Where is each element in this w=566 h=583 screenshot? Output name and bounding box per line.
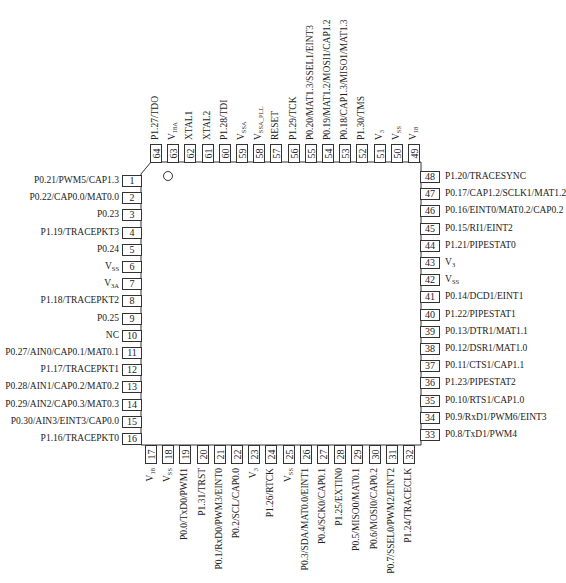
pin-number: 46 — [420, 205, 440, 217]
pin-number-text: 24 — [266, 450, 277, 460]
pin-number: 10 — [122, 330, 142, 342]
pin-number: 62 — [184, 144, 196, 163]
pin-number-text: 63 — [168, 149, 179, 159]
pin-label: VSS — [392, 126, 403, 140]
pin-label: P0.22/CAP0.0/MAT0.0 — [30, 193, 119, 203]
pin-label: P0.25 — [97, 314, 119, 324]
pin-number: 7 — [122, 278, 142, 290]
pin-label: P0.9/RxD1/PWM6/EINT3 — [445, 413, 547, 423]
pin-number: 49 — [408, 144, 420, 163]
pin-number: 24 — [265, 445, 277, 464]
pin-label: P0.11/CTS1/CAP1.1 — [445, 361, 524, 371]
pin-number: 22 — [231, 445, 243, 464]
pin-label: VSS — [105, 262, 119, 273]
pin-number: 19 — [179, 445, 191, 464]
pin-number: 29 — [351, 445, 363, 464]
pin-number: 18 — [162, 445, 174, 464]
pin-number-text: 61 — [202, 149, 213, 159]
pin-number: 31 — [386, 445, 398, 464]
pin-label: P0.20/MAT1.3/SSEL1/EINT3 — [306, 25, 316, 140]
pin-number: 42 — [420, 274, 440, 286]
pin-number: 32 — [403, 445, 415, 464]
pin-number-text: 54 — [323, 149, 334, 159]
pin-label: P0.19/MAT1.2/MOSI1/CAP1.2 — [323, 19, 333, 140]
pin-label: P0.4/SCK0/CAP0.1 — [318, 468, 328, 544]
pin-label: P0.3/SDA/MAT0.0/EINT1 — [301, 468, 311, 570]
pin-number-text: 57 — [271, 149, 282, 159]
pin-label: V3 — [249, 468, 260, 478]
pin-number-text: 58 — [254, 149, 265, 159]
pin-number: 45 — [420, 223, 440, 235]
pin-number: 53 — [339, 144, 351, 163]
pin-label: P1.16/TRACEPKT0 — [41, 434, 119, 444]
pin-label: P0.27/AIN0/CAP0.1/MAT0.1 — [5, 348, 119, 358]
pin-number: 5 — [122, 244, 142, 256]
pin-number: 21 — [214, 445, 226, 464]
pin-number: 55 — [305, 144, 317, 163]
pin-label: V18 — [146, 468, 157, 481]
pin-number: 36 — [420, 377, 440, 389]
pin-label: P1.19/TRACEPKT3 — [41, 228, 119, 238]
pin-number-text: 60 — [219, 149, 230, 159]
pin-number-text: 20 — [197, 450, 208, 460]
pin-number-text: 52 — [357, 149, 368, 159]
pin-number: 3 — [122, 209, 142, 221]
pin-label: P0.10/RTS1/CAP1.0 — [445, 396, 524, 406]
pin-label: P1.24/TRACECLK — [404, 468, 414, 543]
pin-number-text: 18 — [163, 450, 174, 460]
pin-label: P0.15/RI1/EINT2 — [445, 224, 513, 234]
pin-number: 35 — [420, 395, 440, 407]
pin-number: 33 — [420, 429, 440, 441]
pin-label: P0.13/DTR1/MAT1.1 — [445, 327, 528, 337]
pin-number: 43 — [420, 257, 440, 269]
pin-number-text: 21 — [214, 450, 225, 460]
pin-number: 61 — [202, 144, 214, 163]
pin-number-text: 62 — [185, 149, 196, 159]
pin-number: 12 — [122, 364, 142, 376]
pin-label: P0.7/SSEL0/PWM2/EINT2 — [387, 468, 397, 574]
pin-label: P0.1/RxD0/PWM3/EINT0 — [215, 468, 225, 570]
pin-label: P1.18/TRACEPKT2 — [41, 296, 119, 306]
pin-number-text: 23 — [249, 450, 260, 460]
pin-label: P1.27/TDO — [151, 96, 161, 140]
pin-label: V18 — [409, 127, 420, 140]
pin-number: 52 — [356, 144, 368, 163]
pin-label: P0.8/TxD1/PWM4 — [445, 430, 517, 440]
chip-body — [141, 162, 421, 445]
pin-label: VSS — [163, 468, 174, 482]
pin-label: V3 — [445, 258, 455, 269]
pin-label: VSS — [445, 275, 459, 286]
pin-number: 13 — [122, 381, 142, 393]
pin-number: 9 — [122, 313, 142, 325]
pin-number: 2 — [122, 192, 142, 204]
pin-number-text: 51 — [374, 149, 385, 159]
pin-number: 11 — [122, 347, 142, 359]
pin-number-text: 19 — [180, 450, 191, 460]
pin-number-text: 55 — [305, 149, 316, 159]
chip-outline — [141, 162, 421, 445]
pin-label: P1.25/EXTIN0 — [335, 468, 345, 526]
pin-number: 50 — [391, 144, 403, 163]
pin-number-text: 53 — [340, 149, 351, 159]
pin-label: V3 — [375, 130, 386, 140]
pin-label: RESET — [271, 111, 281, 140]
pin-label: P0.28/AIN1/CAP0.2/MAT0.2 — [5, 382, 119, 392]
pin-label: P1.21/PIPESTAT0 — [445, 241, 516, 251]
pin-label: P0.30/AIN3/EINT3/CAP0.0 — [11, 417, 119, 427]
pin-label: XTAL2 — [203, 111, 213, 140]
pin-label: P0.6/MOSI0/CAP0.2 — [370, 468, 380, 549]
pin-label: P1.26/RTCK — [266, 468, 276, 517]
pin-number-text: 27 — [318, 450, 329, 460]
pin-number: 39 — [420, 326, 440, 338]
pin-number: 47 — [420, 188, 440, 200]
pin-number-text: 32 — [404, 450, 415, 460]
pin-number: 26 — [300, 445, 312, 464]
pin-number: 48 — [420, 171, 440, 183]
pin-label: P0.21/PWM5/CAP1.3 — [34, 176, 119, 186]
pin-number-text: 64 — [151, 149, 162, 159]
pin-label: P0.23 — [97, 210, 119, 220]
pin-number-text: 49 — [409, 149, 420, 159]
pin-label: VSSA — [237, 121, 248, 140]
pin-number: 4 — [122, 227, 142, 239]
pin-number-text: 56 — [288, 149, 299, 159]
